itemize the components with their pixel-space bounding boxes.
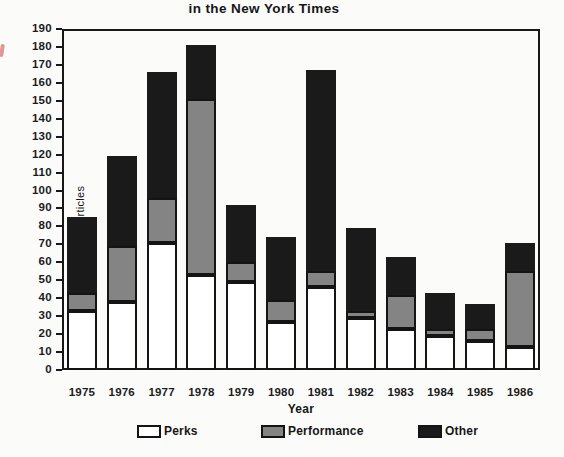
y-tick-150	[56, 100, 62, 102]
legend-label-perks: Perks	[164, 424, 198, 438]
chart-title: in the New York Times	[0, 1, 528, 16]
y-tick-label-130: 130	[22, 130, 52, 142]
x-tick-label-1984: 1984	[420, 386, 460, 398]
x-tick-label-1976: 1976	[102, 386, 142, 398]
y-tick-label-80: 80	[22, 219, 52, 231]
bar-1981-performance	[306, 271, 336, 287]
bar-1986-perks	[505, 347, 535, 370]
bar-1980-other	[266, 237, 296, 300]
bar-1975-performance	[67, 293, 97, 311]
y-tick-label-170: 170	[22, 58, 52, 70]
bar-1979-other	[226, 205, 256, 262]
stacked-bar-chart-figure: in the New York Times Number of articles…	[0, 0, 564, 457]
bar-1985-perks	[465, 341, 495, 370]
bar-1978-other	[186, 45, 216, 99]
bar-1983-performance	[386, 295, 416, 329]
x-tick-label-1982: 1982	[341, 386, 381, 398]
x-axis-title: Year	[62, 402, 540, 416]
y-tick-label-150: 150	[22, 94, 52, 106]
bar-1979-performance	[226, 262, 256, 282]
bar-1975-other	[67, 217, 97, 292]
y-tick-label-140: 140	[22, 112, 52, 124]
bar-1986-other	[505, 243, 535, 272]
y-tick-label-60: 60	[22, 255, 52, 267]
bar-1985-performance	[465, 329, 495, 342]
y-tick-label-0: 0	[22, 363, 52, 375]
y-tick-50	[56, 279, 62, 281]
bar-1976-perks	[107, 302, 137, 370]
y-tick-60	[56, 261, 62, 263]
bar-1981-perks	[306, 287, 336, 370]
bar-1976-performance	[107, 246, 137, 302]
scan-artifact-mark	[0, 44, 5, 57]
x-tick-label-1975: 1975	[62, 386, 102, 398]
bar-1981-other	[306, 70, 336, 271]
y-tick-label-70: 70	[22, 237, 52, 249]
x-tick-label-1986: 1986	[500, 386, 540, 398]
x-tick-label-1981: 1981	[301, 386, 341, 398]
y-tick-110	[56, 172, 62, 174]
y-tick-140	[56, 118, 62, 120]
bar-1982-performance	[346, 311, 376, 318]
bar-1977-other	[147, 72, 177, 198]
y-tick-130	[56, 136, 62, 138]
y-tick-label-30: 30	[22, 309, 52, 321]
bar-1978-performance	[186, 99, 216, 275]
y-tick-label-160: 160	[22, 76, 52, 88]
y-tick-190	[56, 28, 62, 30]
performance-swatch-icon	[261, 425, 285, 438]
y-tick-180	[56, 46, 62, 48]
legend-item-other: Other	[418, 424, 478, 438]
y-tick-30	[56, 315, 62, 317]
bar-1975-perks	[67, 311, 97, 370]
legend: Perks Performance Other	[0, 424, 564, 444]
perks-swatch-icon	[137, 425, 161, 438]
x-tick-label-1977: 1977	[142, 386, 182, 398]
y-tick-90	[56, 207, 62, 209]
other-swatch-icon	[418, 425, 442, 438]
bar-1986-performance	[505, 271, 535, 346]
y-tick-120	[56, 154, 62, 156]
legend-label-performance: Performance	[288, 424, 364, 438]
y-tick-170	[56, 64, 62, 66]
bar-1984-performance	[425, 329, 455, 336]
bar-1982-other	[346, 228, 376, 311]
y-tick-label-180: 180	[22, 40, 52, 52]
y-tick-label-10: 10	[22, 345, 52, 357]
y-tick-label-20: 20	[22, 327, 52, 339]
y-tick-70	[56, 243, 62, 245]
legend-item-performance: Performance	[261, 424, 364, 438]
x-tick-label-1985: 1985	[460, 386, 500, 398]
y-tick-label-120: 120	[22, 148, 52, 160]
y-tick-label-190: 190	[22, 22, 52, 34]
bar-1985-other	[465, 304, 495, 329]
legend-label-other: Other	[445, 424, 478, 438]
x-tick-label-1979: 1979	[221, 386, 261, 398]
legend-item-perks: Perks	[137, 424, 198, 438]
y-tick-label-110: 110	[22, 166, 52, 178]
bar-1977-perks	[147, 243, 177, 370]
bar-1983-other	[386, 257, 416, 295]
x-tick-label-1980: 1980	[261, 386, 301, 398]
bar-1983-perks	[386, 329, 416, 370]
y-tick-160	[56, 82, 62, 84]
y-tick-0	[56, 369, 62, 371]
x-tick-label-1983: 1983	[381, 386, 421, 398]
x-tick-label-1978: 1978	[181, 386, 221, 398]
bar-1982-perks	[346, 318, 376, 370]
y-tick-label-90: 90	[22, 201, 52, 213]
bar-1980-performance	[266, 300, 296, 322]
bar-1976-other	[107, 156, 137, 246]
y-tick-10	[56, 351, 62, 353]
bar-1980-perks	[266, 322, 296, 370]
y-tick-100	[56, 190, 62, 192]
bar-1977-performance	[147, 198, 177, 243]
bar-1984-perks	[425, 336, 455, 370]
y-tick-label-40: 40	[22, 291, 52, 303]
bar-1984-other	[425, 293, 455, 329]
y-tick-label-50: 50	[22, 273, 52, 285]
y-tick-20	[56, 333, 62, 335]
bar-1978-perks	[186, 275, 216, 370]
bar-1979-perks	[226, 282, 256, 370]
y-tick-40	[56, 297, 62, 299]
